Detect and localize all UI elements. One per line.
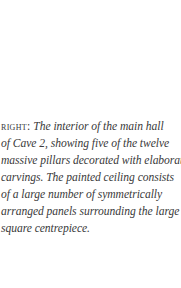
caption-line-4: carvings. The painted ceiling consists [1,169,179,186]
image-caption: RIGHT: The interior of the main hall of … [1,118,179,237]
caption-line-3: massive pillars decorated with elaborate [1,152,179,169]
caption-line-6: arranged panels surrounding the large [1,203,179,220]
caption-text: The interior of the main hall [30,120,163,133]
caption-line-1: RIGHT: The interior of the main hall [1,118,179,135]
caption-line-5: of a large number of symmetrically [1,186,179,203]
caption-line-7: square centrepiece. [1,220,179,237]
caption-line-2: of Cave 2, showing five of the twelve [1,135,179,152]
caption-label: RIGHT: [1,120,30,133]
